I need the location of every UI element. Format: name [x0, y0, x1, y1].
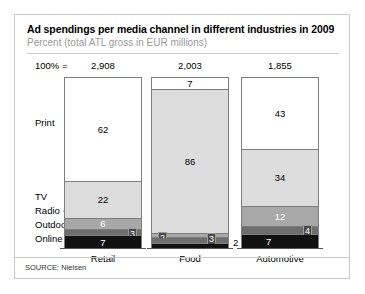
value-automotive-print: 43	[242, 109, 318, 119]
segment-retail-print[interactable]: 62	[65, 78, 141, 182]
total-automotive: 1,855	[241, 60, 319, 71]
value-retail-tv: 22	[65, 195, 141, 205]
segment-automotive-radio[interactable]: 12	[242, 207, 318, 227]
value-retail-print: 62	[65, 125, 141, 135]
segment-retail-tv[interactable]: 22	[65, 182, 141, 219]
segment-automotive-print[interactable]: 43	[242, 78, 318, 150]
segment-automotive-tv[interactable]: 34	[242, 150, 318, 207]
value-automotive-radio: 12	[242, 212, 318, 222]
segment-automotive-online[interactable]: 7	[242, 235, 318, 249]
xtick-food: Food	[151, 253, 229, 264]
segment-automotive-outdoor[interactable]: 4	[242, 227, 318, 235]
bar-retail[interactable]: 62 22 6 3 7	[64, 77, 142, 249]
channel-label-online: Online	[35, 233, 62, 244]
bar-food[interactable]: 7 86 2 3	[151, 77, 229, 249]
channel-label-print: Print	[35, 117, 55, 128]
source-note: SOURCE: Nielsen	[25, 263, 86, 272]
chart-card: Ad spendings per media channel in differ…	[14, 14, 350, 279]
total-food: 2,003	[151, 60, 229, 71]
value-food-print: 7	[152, 79, 228, 89]
total-retail: 2,908	[64, 60, 142, 71]
xtick-automotive: Automotive	[241, 253, 319, 264]
value-food-online: 2	[233, 237, 238, 248]
segment-food-tv[interactable]: 86	[152, 90, 228, 234]
baseline-food	[147, 248, 233, 249]
segment-food-print[interactable]: 7	[152, 78, 228, 90]
baseline-automotive	[237, 248, 323, 249]
header-divider	[27, 53, 339, 54]
basis-label: 100% =	[35, 60, 68, 71]
baseline-retail	[60, 248, 146, 249]
channel-label-tv: TV	[35, 191, 47, 202]
channel-label-radio: Radio	[35, 205, 60, 216]
chart-title: Ad spendings per media channel in differ…	[27, 23, 334, 35]
chart-subtitle: Percent (total ATL gross in EUR millions…	[27, 37, 207, 48]
value-automotive-online: 7	[242, 237, 318, 247]
value-retail-online: 7	[65, 238, 141, 248]
value-automotive-tv: 34	[242, 173, 318, 183]
bar-automotive[interactable]: 43 34 12 4 7	[241, 77, 319, 249]
source-divider	[15, 257, 350, 258]
value-food-tv: 86	[152, 157, 228, 167]
